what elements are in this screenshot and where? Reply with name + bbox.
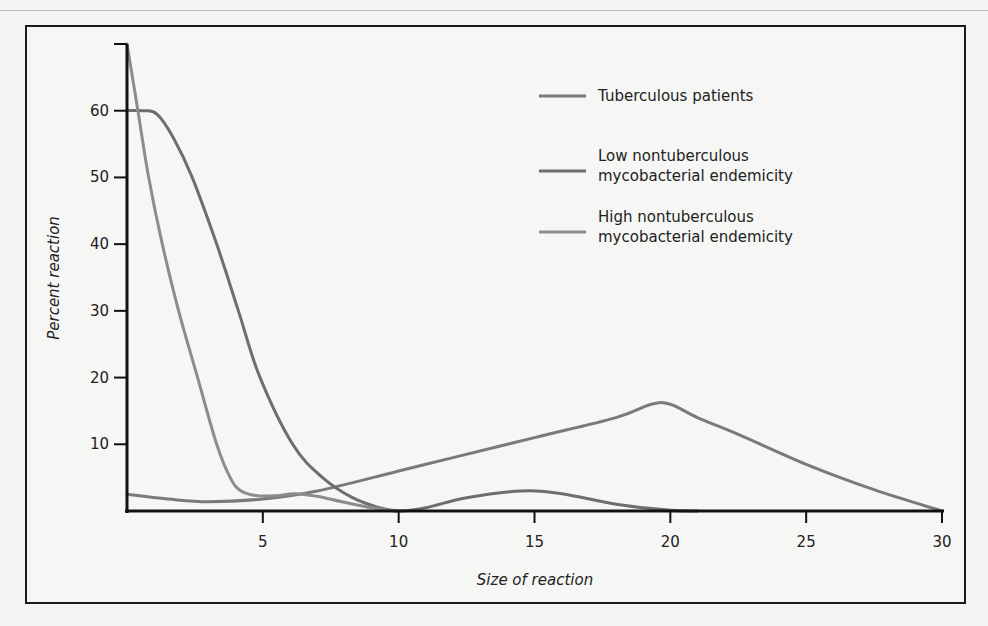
legend-label: Low nontuberculous bbox=[598, 147, 749, 165]
line-chart: 51015202530102030405060 Size of reaction… bbox=[0, 0, 988, 626]
x-tick-label: 5 bbox=[258, 533, 268, 551]
y-tick-label: 30 bbox=[90, 302, 109, 320]
legend-item-2: High nontuberculousmycobacterial endemic… bbox=[539, 208, 793, 246]
x-axis-title: Size of reaction bbox=[477, 571, 593, 589]
y-tick-label: 40 bbox=[90, 235, 109, 253]
series-line-2 bbox=[127, 44, 399, 511]
x-tick-label: 25 bbox=[797, 533, 816, 551]
y-tick-label: 20 bbox=[90, 369, 109, 387]
x-tick-label: 20 bbox=[661, 533, 680, 551]
legend-label: Tuberculous patients bbox=[597, 87, 754, 105]
x-tick-label: 15 bbox=[525, 533, 544, 551]
legend-item-0: Tuberculous patients bbox=[539, 87, 754, 105]
axes bbox=[125, 44, 944, 513]
x-tick-label: 10 bbox=[389, 533, 408, 551]
y-tick-label: 10 bbox=[90, 435, 109, 453]
y-tick-label: 60 bbox=[90, 102, 109, 120]
legend-label: mycobacterial endemicity bbox=[598, 167, 793, 185]
y-tick-label: 50 bbox=[90, 168, 109, 186]
legend-label: High nontuberculous bbox=[598, 208, 754, 226]
x-tick-label: 30 bbox=[932, 533, 951, 551]
legend: Tuberculous patientsLow nontuberculousmy… bbox=[539, 87, 793, 246]
legend-item-1: Low nontuberculousmycobacterial endemici… bbox=[539, 147, 793, 185]
series-layer bbox=[127, 44, 942, 511]
y-axis-title: Percent reaction bbox=[45, 216, 63, 340]
legend-label: mycobacterial endemicity bbox=[598, 228, 793, 246]
ticks: 51015202530102030405060 bbox=[90, 44, 952, 551]
